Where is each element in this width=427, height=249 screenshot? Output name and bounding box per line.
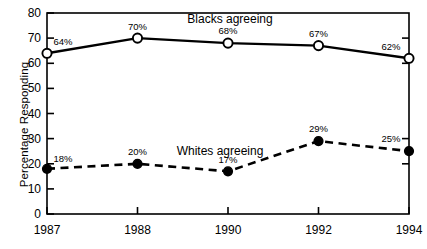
series-annotation-whites: Whites agreeing [165, 145, 275, 158]
data-label-blacks-1987: 64% [48, 37, 78, 47]
y-tick-label-80: 80 [15, 7, 41, 19]
data-label-blacks-1988: 70% [123, 22, 153, 32]
y-tick-label-10: 10 [15, 183, 41, 195]
y-tick-label-40: 40 [15, 108, 41, 120]
y-tick-label-20: 20 [15, 158, 41, 170]
y-tick-label-0: 0 [15, 208, 41, 220]
data-point-whites-1987 [43, 164, 52, 173]
x-tick-label-1988: 1988 [116, 224, 160, 236]
x-tick-label-1994: 1994 [387, 224, 427, 236]
data-point-whites-1990 [224, 167, 233, 176]
data-label-blacks-1990: 68% [213, 26, 243, 36]
data-point-whites-1992 [314, 137, 323, 146]
x-tick-label-1992: 1992 [297, 224, 341, 236]
x-tick-label-1990: 1990 [206, 224, 250, 236]
x-tick-label-1987: 1987 [25, 224, 69, 236]
data-label-blacks-1992: 67% [304, 29, 334, 39]
series-annotation-blacks: Blacks agreeing [175, 13, 285, 26]
line-chart: Percentage Responding 80 70 60 50 40 30 … [0, 0, 427, 249]
data-point-blacks-1988 [133, 34, 142, 43]
data-point-whites-1988 [133, 159, 142, 168]
data-point-blacks-1992 [314, 41, 323, 50]
data-point-blacks-1994 [404, 54, 413, 63]
data-point-blacks-1987 [42, 49, 51, 58]
data-label-whites-1987: 18% [48, 154, 78, 164]
y-tick-label-70: 70 [15, 32, 41, 44]
data-label-whites-1988: 20% [123, 147, 153, 157]
data-label-blacks-1994: 62% [376, 42, 406, 52]
y-tick-label-30: 30 [15, 133, 41, 145]
y-tick-label-60: 60 [15, 57, 41, 69]
data-label-whites-1994: 25% [376, 134, 406, 144]
y-tick-label-50: 50 [15, 82, 41, 94]
data-label-whites-1992: 29% [304, 124, 334, 134]
data-point-whites-1994 [405, 147, 414, 156]
data-point-blacks-1990 [223, 39, 232, 48]
